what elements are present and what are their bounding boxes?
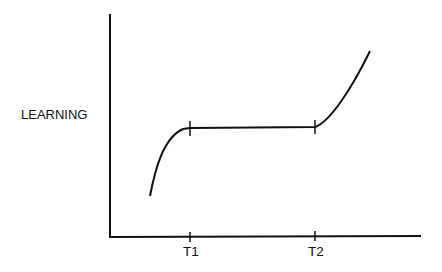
diagram-canvas [0,0,442,272]
learning-curve [150,51,370,196]
x-tick-label-t2: T2 [308,244,324,259]
x-tick-label-t1: T1 [183,244,199,259]
x-axis [109,236,421,237]
learning-plateau-diagram: LEARNING T1 T2 [0,0,442,272]
y-axis-label: LEARNING [21,107,87,122]
